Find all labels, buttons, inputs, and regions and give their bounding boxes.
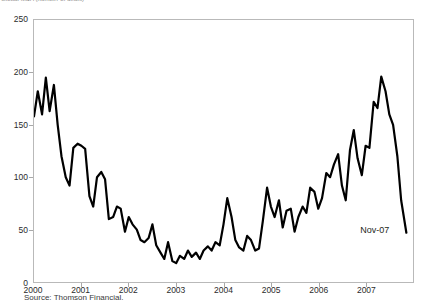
- x-axis-label: 2007: [357, 286, 376, 295]
- x-axis-tick: [81, 283, 82, 287]
- y-axis-label: 150: [14, 121, 28, 130]
- y-axis-label: 50: [19, 226, 28, 235]
- x-axis-tick: [224, 283, 225, 287]
- y-axis-label: 100: [14, 173, 28, 182]
- plot-area: [33, 19, 414, 283]
- y-axis: 050100150200250: [0, 0, 33, 303]
- x-axis-tick: [271, 283, 272, 287]
- x-axis-label: 2006: [309, 286, 328, 295]
- x-axis-tick: [128, 283, 129, 287]
- x-axis-label: 2004: [214, 286, 233, 295]
- x-axis-label: 2005: [262, 286, 281, 295]
- last-point-label: Nov-07: [360, 225, 389, 235]
- chart-figure: Global M&A (number of deals) 05010015020…: [0, 0, 424, 303]
- series-path: [34, 77, 406, 264]
- y-axis-label: 250: [14, 15, 28, 24]
- source-note: Source: Thomson Financial.: [24, 293, 123, 302]
- x-axis-tick: [176, 283, 177, 287]
- x-axis-tick: [319, 283, 320, 287]
- x-axis-tick: [366, 283, 367, 287]
- x-axis-label: 2003: [166, 286, 185, 295]
- y-axis-label: 200: [14, 68, 28, 77]
- chart-title-strip: Global M&A (number of deals): [0, 0, 424, 7]
- data-series-line: [34, 20, 413, 282]
